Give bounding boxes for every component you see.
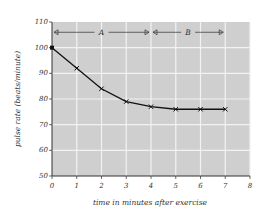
x-tick-label: 8 xyxy=(248,182,253,190)
y-tick-label: 110 xyxy=(35,18,49,26)
y-tick-label: 90 xyxy=(39,69,48,77)
y-axis-label: pulse rate (beats/minute) xyxy=(13,51,22,147)
x-tick-label: 1 xyxy=(75,182,79,190)
y-tick-label: 60 xyxy=(39,146,48,154)
x-tick-label: 4 xyxy=(148,182,153,190)
x-tick-label: 5 xyxy=(174,182,179,190)
x-tick-label: 6 xyxy=(198,182,203,190)
phase-label: A xyxy=(98,28,105,37)
x-axis-label: time in minutes after exercise xyxy=(93,198,208,207)
y-tick-label: 70 xyxy=(39,121,48,129)
x-tick-label: 0 xyxy=(50,182,55,190)
x-tick-label: 3 xyxy=(124,182,129,190)
x-tick-label: 2 xyxy=(98,182,104,190)
pulse-rate-chart: 0123456785060708090100110 AB time in min… xyxy=(0,0,267,223)
phase-label: B xyxy=(184,28,191,37)
y-tick-label: 80 xyxy=(39,95,48,103)
y-tick-label: 100 xyxy=(35,44,49,52)
y-tick-label: 50 xyxy=(39,172,48,180)
x-tick-label: 7 xyxy=(223,182,228,190)
